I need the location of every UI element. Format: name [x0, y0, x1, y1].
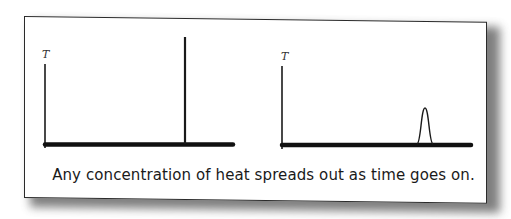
right-gaussian-bump [417, 108, 433, 144]
right-t-axis-label: T [281, 50, 288, 63]
figure-caption: Any concentration of heat spreads out as… [0, 166, 511, 184]
left-t-axis-label: T [42, 48, 49, 61]
panel-initial [45, 37, 233, 148]
panel-later [282, 66, 471, 149]
heat-diffusion-figure [0, 0, 511, 219]
